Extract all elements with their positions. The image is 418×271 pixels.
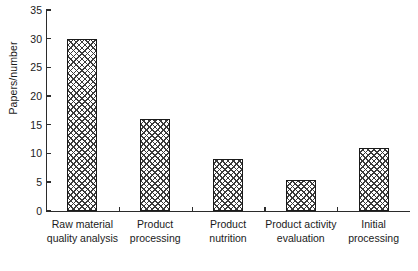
bar xyxy=(140,119,170,211)
y-tick-mark xyxy=(46,124,51,125)
bar xyxy=(67,39,97,211)
y-tick-mark xyxy=(46,95,51,96)
bar xyxy=(286,180,316,210)
y-tick-label: 20 xyxy=(30,91,42,102)
bar xyxy=(213,159,243,211)
bar-chart-figure: Papers/number 05101520253035 Raw materia… xyxy=(0,0,418,271)
y-tick-mark xyxy=(46,153,51,154)
y-tick-label: 35 xyxy=(30,5,42,16)
x-tick-mark xyxy=(264,207,265,212)
x-tick-mark xyxy=(119,207,120,212)
y-tick-label: 15 xyxy=(30,119,42,130)
x-tick-mark xyxy=(192,207,193,212)
y-tick-mark xyxy=(46,181,51,182)
y-axis-title: Papers/number xyxy=(7,23,19,133)
y-tick-mark xyxy=(46,210,51,211)
x-axis-spine xyxy=(46,211,410,212)
y-tick-label: 0 xyxy=(36,205,42,216)
y-tick-label: 10 xyxy=(30,148,42,159)
bar xyxy=(359,148,389,211)
y-tick-label: 5 xyxy=(36,177,42,188)
x-tick-mark xyxy=(337,207,338,212)
y-tick-mark xyxy=(46,38,51,39)
plot-area: 05101520253035 xyxy=(46,10,410,212)
y-tick-label: 30 xyxy=(30,33,42,44)
category-label: Initial processing xyxy=(329,218,418,245)
y-tick-mark xyxy=(46,67,51,68)
y-tick-mark xyxy=(46,9,51,10)
y-tick-label: 25 xyxy=(30,62,42,73)
